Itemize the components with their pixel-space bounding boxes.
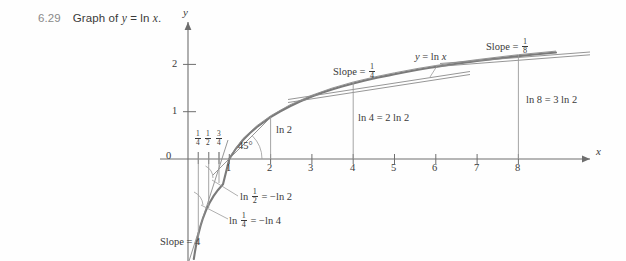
x-axis — [160, 156, 590, 163]
ln-suffix: = −ln 2 — [262, 191, 293, 202]
angle-45-arc — [252, 136, 262, 159]
ln-quarter-label: ln 1 4 = −ln 4 — [229, 212, 281, 230]
ln-prefix: ln — [240, 191, 248, 202]
y-axis-label: y — [183, 6, 188, 18]
x-tick-label-5: 5 — [391, 162, 396, 173]
x-tick-label-6: 6 — [432, 162, 437, 173]
frac-den: 4 — [241, 221, 247, 229]
y-tick-label-1: 1 — [172, 105, 177, 116]
slope-one-eighth-label: Slope = 1 8 — [486, 38, 529, 56]
y-axis — [185, 22, 192, 261]
figure-root: 6.29Graph of y = ln x. — [0, 0, 626, 261]
x-axis-label: x — [596, 145, 601, 157]
ln-half-label: ln 1 2 = −ln 2 — [240, 188, 292, 206]
frac-den: 4 — [195, 139, 201, 147]
ln-prefix: ln — [229, 215, 237, 226]
ln2-label: ln 2 — [276, 124, 292, 135]
tangent-line-at-4-outline — [288, 75, 470, 103]
plot-canvas — [0, 0, 626, 261]
x-tick-label-3: 3 — [308, 162, 313, 173]
ln-curve-outline — [229, 51, 556, 157]
x-tick-label-three-quarters: 3 4 — [215, 130, 223, 146]
y-tick-label-2: 2 — [172, 58, 177, 69]
ln8-label: ln 8 = 3 ln 2 — [526, 94, 577, 105]
frac-den: 2 — [252, 197, 258, 205]
frac-den: 4 — [369, 72, 375, 80]
ln4-label: ln 4 = 2 ln 2 — [358, 112, 409, 123]
frac-den: 4 — [216, 139, 222, 147]
origin-arc-upper — [206, 166, 214, 178]
slope-prefix: Slope = — [486, 41, 518, 52]
slope-one-quarter-label: Slope = 1 4 — [333, 63, 376, 81]
x-tick-label-7: 7 — [474, 162, 479, 173]
angle-45-label: 45° — [238, 140, 253, 151]
x-tick-label-1: 1 — [226, 162, 231, 173]
slope-four-label: Slope = 4 — [160, 236, 200, 247]
y-axis-ticks — [183, 64, 196, 111]
x-tick-label-4: 4 — [350, 162, 355, 173]
x-tick-label-2: 2 — [267, 162, 272, 173]
origin-label: 0 — [166, 150, 171, 161]
frac-den: 8 — [522, 47, 528, 55]
frac-den: 2 — [205, 139, 211, 147]
x-tick-label-one-quarter: 1 4 — [194, 130, 202, 146]
curve-equation-label: y = ln x — [415, 51, 446, 62]
x-tick-label-8: 8 — [515, 162, 520, 173]
x-tick-label-one-half: 1 2 — [204, 130, 212, 146]
ln-suffix: = −ln 4 — [251, 215, 282, 226]
slope-prefix: Slope = — [333, 66, 365, 77]
